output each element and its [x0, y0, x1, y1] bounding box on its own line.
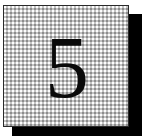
number-badge: 5 — [0, 0, 147, 140]
badge-number: 5 — [45, 24, 89, 112]
badge-card: 5 — [3, 5, 129, 127]
